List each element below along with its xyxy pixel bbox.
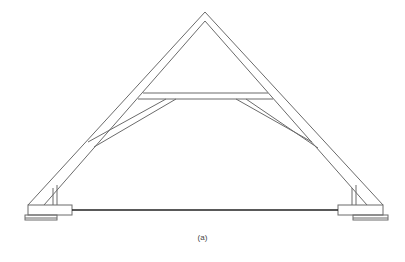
right-wall-plate: [338, 205, 383, 215]
collar-beam: [138, 93, 273, 99]
left-rafter: [28, 12, 205, 205]
truss-diagram: [0, 0, 405, 262]
right-brace: [236, 99, 318, 148]
right-rafter: [205, 12, 383, 205]
figure-caption: (a): [0, 233, 405, 242]
left-post: [53, 185, 57, 205]
left-wall-plate: [28, 205, 72, 215]
